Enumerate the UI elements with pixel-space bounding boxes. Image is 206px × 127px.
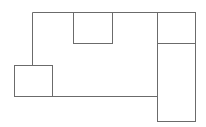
right-bottom-box (158, 44, 196, 122)
left-box (15, 66, 53, 97)
main-room (33, 13, 158, 97)
right-top-box (158, 13, 196, 44)
top-middle-box (74, 13, 113, 44)
floor-plan-diagram (0, 0, 206, 127)
